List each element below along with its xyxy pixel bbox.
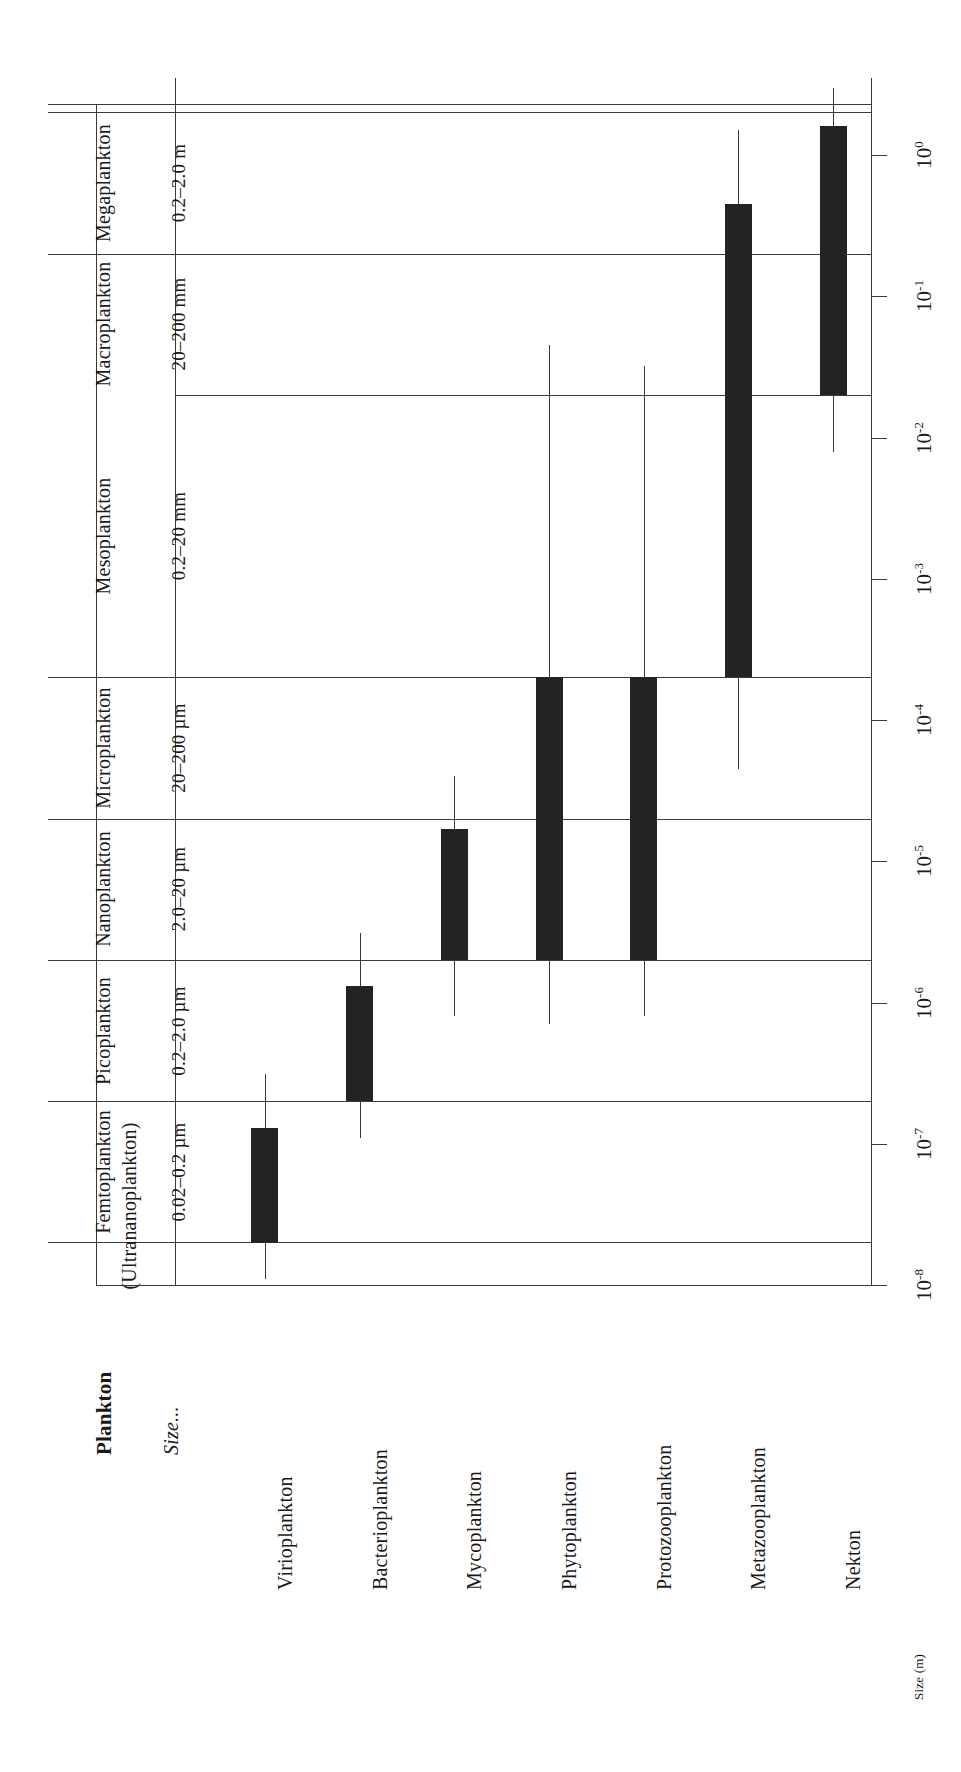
size-class-name: Mesoplankton (92, 478, 115, 595)
range-bar (441, 829, 468, 960)
axis-tick-mantissa: 10 (912, 574, 936, 595)
category-label: Phytoplankton (558, 1471, 581, 1590)
size-axis-title: Size (m) (911, 1654, 927, 1700)
axis-tick-label: 10-3 (911, 563, 937, 595)
range-bar (536, 677, 563, 960)
size-class-range: 20–200 mm (168, 278, 190, 371)
axis-tick-mantissa: 10 (912, 1139, 936, 1160)
size-class-range: 20–200 µm (168, 703, 190, 792)
size-class-range: 0.02–0.2 µm (168, 1122, 190, 1221)
axis-tick-label: 10-2 (911, 422, 937, 454)
size-class-range: 0.2–2.0 m (168, 144, 190, 222)
axis-tick-label: 100 (911, 141, 937, 169)
axis-tick-mantissa: 10 (912, 715, 936, 736)
size-class-boundary (175, 395, 872, 396)
size-class-name: Microplankton (92, 687, 115, 808)
size-class-name: Megaplankton (92, 124, 115, 242)
size-class-name: Macroplankton (92, 262, 115, 387)
size-class-boundary (48, 819, 872, 820)
size-class-boundary (48, 1101, 872, 1102)
axis-tick (872, 1285, 887, 1286)
range-bar (630, 677, 657, 960)
range-bar (346, 986, 373, 1101)
size-class-name: Picoplankton (92, 977, 115, 1085)
plot-area: Femtoplankton(Ultrananoplankton)0.02–0.2… (0, 0, 961, 1772)
category-label: Protozooplankton (653, 1445, 676, 1590)
size-class-boundary (48, 1242, 872, 1243)
range-bar (251, 1128, 278, 1243)
axis-tick (872, 720, 887, 721)
range-bar (725, 204, 752, 677)
category-label: Mycoplankton (463, 1471, 486, 1590)
figure-page: Femtoplankton(Ultrananoplankton)0.02–0.2… (0, 0, 961, 1772)
range-bar (820, 126, 847, 395)
axis-tick-exponent: -8 (911, 1269, 926, 1280)
category-label: Bacterioplankton (369, 1449, 392, 1590)
axis-tick (872, 1144, 887, 1145)
axis-tick (872, 155, 887, 156)
axis-tick-exponent: -3 (911, 563, 926, 574)
axis-tick-exponent: -6 (911, 987, 926, 998)
axis-tick-mantissa: 10 (912, 856, 936, 877)
category-axis-spine (175, 78, 176, 1285)
axis-tick-exponent: -7 (911, 1128, 926, 1139)
axis-tick-exponent: -1 (911, 280, 926, 291)
axis-tick-label: 10-4 (911, 704, 937, 736)
axis-tick-exponent: -5 (911, 845, 926, 856)
size-class-name: Nanoplankton (92, 831, 115, 947)
axis-tick-exponent: 0 (911, 141, 926, 148)
category-label: Nekton (842, 1530, 865, 1590)
axis-tick-label: 10-8 (911, 1269, 937, 1301)
size-class-subtitle: (Ultrananoplankton) (118, 1122, 141, 1289)
axis-tick-label: 10-7 (911, 1128, 937, 1160)
axis-tick-mantissa: 10 (912, 1280, 936, 1301)
axis-tick-mantissa: 10 (912, 291, 936, 312)
axis-tick-exponent: -2 (911, 422, 926, 433)
axis-tick (872, 296, 887, 297)
axis-tick-mantissa: 10 (912, 433, 936, 454)
axis-tick (872, 438, 887, 439)
size-class-name: Femtoplankton (92, 1110, 115, 1234)
size-class-range: 0.2–20 mm (168, 492, 190, 580)
header-plankton-label: Plankton (92, 1372, 117, 1455)
header-size-label: Size... (160, 1406, 183, 1455)
size-class-boundary (48, 960, 872, 961)
axis-tick (872, 579, 887, 580)
category-label: Virioplankton (274, 1476, 297, 1590)
axis-tick-mantissa: 10 (912, 998, 936, 1019)
size-axis-spine (871, 78, 872, 1285)
axis-tick-label: 10-1 (911, 280, 937, 312)
axis-tick-exponent: -4 (911, 704, 926, 715)
axis-tick-label: 10-5 (911, 845, 937, 877)
plot-bottom-rule (96, 1285, 872, 1286)
axis-tick-label: 10-6 (911, 987, 937, 1019)
size-class-boundary (48, 112, 872, 113)
axis-tick (872, 1003, 887, 1004)
category-label: Metazooplankton (747, 1447, 770, 1590)
axis-tick-mantissa: 10 (912, 148, 936, 169)
size-class-range: 0.2–2.0 µm (168, 986, 190, 1075)
size-class-boundary (48, 677, 872, 678)
size-class-range: 2.0–20 µm (168, 847, 190, 932)
axis-tick (872, 861, 887, 862)
plot-top-rule (48, 104, 872, 105)
